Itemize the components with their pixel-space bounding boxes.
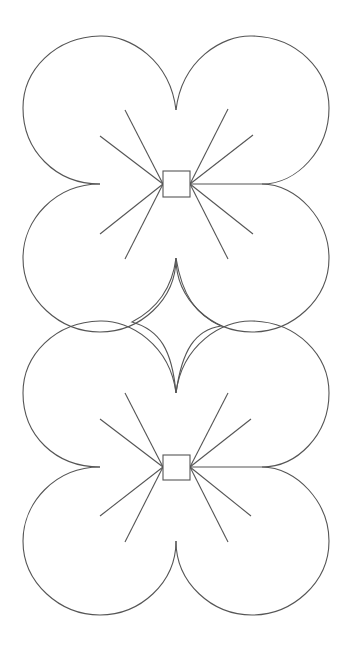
petal-top-right <box>176 36 329 184</box>
petal-bottom-left <box>23 467 176 615</box>
ray-line-6 <box>190 135 253 184</box>
ray-line-4 <box>125 467 163 542</box>
center-square <box>163 171 190 197</box>
petal-top-left <box>23 321 176 467</box>
ray-line-1 <box>125 393 163 467</box>
drawing-canvas <box>0 0 354 653</box>
center-square <box>163 455 190 480</box>
petal-top-right <box>176 321 329 467</box>
bottom-flower <box>23 321 329 615</box>
top-flower <box>23 36 329 332</box>
ray-line-4 <box>125 184 163 259</box>
ray-line-6 <box>190 419 251 467</box>
ray-line-9 <box>190 184 228 259</box>
ray-line-2 <box>100 136 163 184</box>
petal-bottom-right <box>176 184 329 332</box>
ray-line-3 <box>100 184 163 234</box>
ray-line-8 <box>190 467 251 516</box>
ray-line-2 <box>100 419 163 467</box>
ray-line-5 <box>190 393 228 467</box>
ray-line-5 <box>190 109 228 184</box>
flower-line-drawing <box>0 0 354 653</box>
ray-line-9 <box>190 467 228 542</box>
ray-line-8 <box>190 184 253 234</box>
ray-line-3 <box>100 467 163 516</box>
petal-bottom-right <box>176 467 329 615</box>
flowers-layer <box>23 36 329 615</box>
ray-line-1 <box>125 110 163 184</box>
middle-four-point-star <box>132 258 221 393</box>
petal-top-left <box>23 36 176 184</box>
petal-bottom-left <box>23 184 176 332</box>
